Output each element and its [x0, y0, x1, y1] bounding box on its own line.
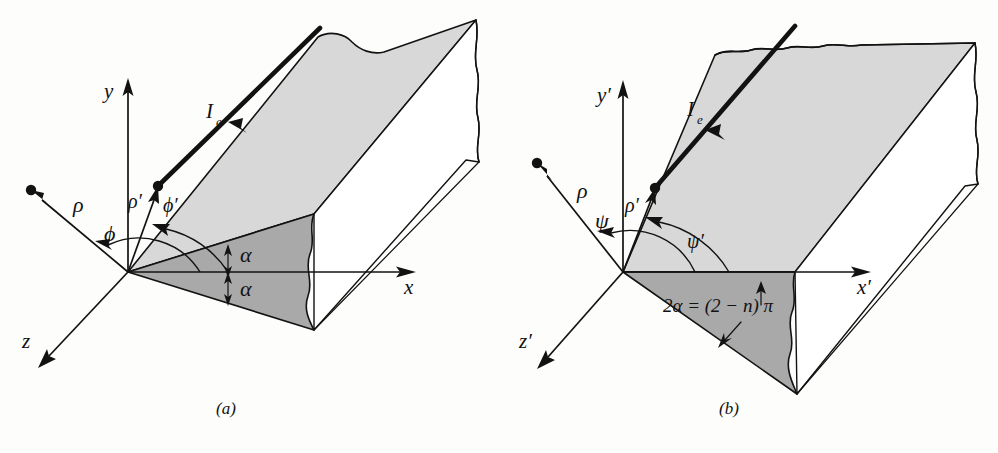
- z-axis-label: z: [21, 329, 30, 353]
- panel-b-caption: (b): [719, 399, 739, 418]
- panel-b-svg: y′ x′ z′ ρ ρ′ ψ ψ′: [499, 0, 998, 453]
- psi-prime-label: ψ′: [687, 230, 704, 253]
- figure-root: y x z ρ ρ′ ϕ ϕ′: [0, 0, 998, 453]
- rho-prime-label-b: ρ′: [624, 194, 640, 217]
- incident-ray-subscript: e: [216, 114, 222, 129]
- incident-ray-label-b: I: [686, 97, 695, 121]
- z-prime-axis-line: [548, 272, 623, 357]
- x-prime-axis-label: x′: [856, 275, 871, 299]
- rho-label: ρ: [72, 192, 84, 217]
- rho-prime-label: ρ′: [127, 190, 143, 213]
- wedge-lower-face-b: [623, 272, 797, 394]
- z-prime-axis-label: z′: [518, 329, 532, 353]
- z-axis-line: [49, 272, 128, 356]
- x-axis-label: x: [403, 275, 414, 299]
- y-prime-axis-label: y′: [595, 83, 611, 107]
- rho-endpoint-dot-b: [532, 158, 542, 168]
- phi-label: ϕ: [104, 221, 115, 246]
- alpha-lower-label: α: [240, 276, 252, 301]
- panel-a-svg: y x z ρ ρ′ ϕ ϕ′: [0, 0, 499, 453]
- y-axis-label: y: [102, 79, 114, 103]
- incident-ray-subscript-b: e: [697, 112, 703, 127]
- phi-prime-label: ϕ′: [163, 194, 178, 217]
- wedge-angle-equation: 2α = (2 − n) π: [663, 295, 774, 317]
- alpha-upper-label: α: [240, 242, 252, 267]
- incident-ray-label: I: [205, 99, 214, 123]
- rho-endpoint-dot: [26, 185, 36, 195]
- panel-a-caption: (a): [216, 399, 236, 418]
- psi-label: ψ: [595, 208, 609, 233]
- panel-a: y x z ρ ρ′ ϕ ϕ′: [0, 0, 499, 453]
- rho-label-b: ρ: [576, 178, 588, 203]
- panel-b: y′ x′ z′ ρ ρ′ ψ ψ′: [499, 0, 998, 453]
- incident-ray-arrowhead: [228, 118, 247, 133]
